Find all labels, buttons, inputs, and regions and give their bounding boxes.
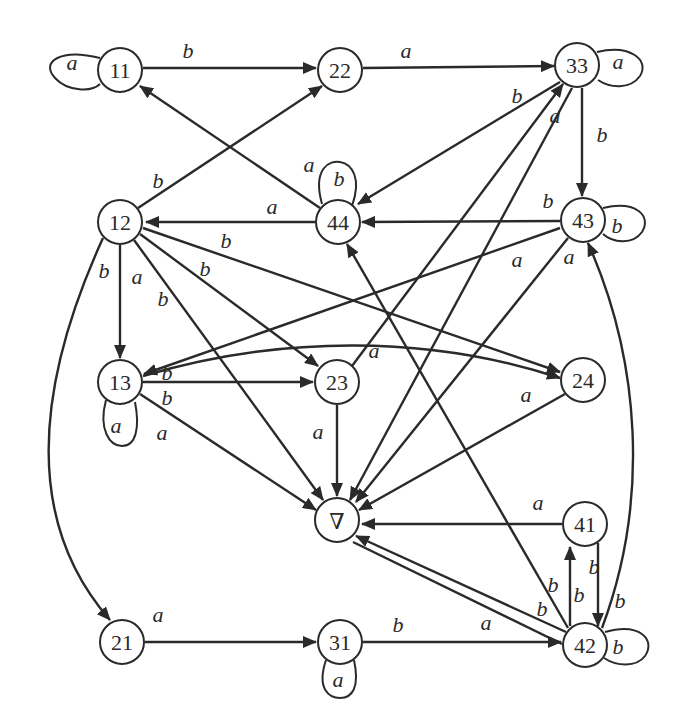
label-13-23: b: [162, 385, 173, 410]
label-12-21: b: [99, 258, 110, 283]
node-23: 23: [315, 360, 359, 404]
label-12-22: b: [153, 168, 164, 193]
label-33-43: b: [597, 122, 608, 147]
label-24-sink: a: [521, 382, 532, 407]
node-41: 41: [563, 502, 607, 546]
node-11: 11: [98, 48, 142, 92]
svg-text:24: 24: [572, 368, 594, 393]
svg-text:11: 11: [109, 58, 130, 83]
svg-text:23: 23: [326, 370, 348, 395]
svg-text:12: 12: [109, 210, 131, 235]
label-43-43: b: [612, 213, 623, 238]
node-22: 22: [318, 48, 362, 92]
label-13-13: a: [111, 413, 122, 438]
edge-42-sink-a: [353, 542, 562, 644]
node-13: 13: [98, 360, 142, 404]
svg-text:41: 41: [574, 512, 596, 537]
label-43-13: a: [512, 247, 523, 272]
svg-text:22: 22: [329, 58, 351, 83]
loop-43: [603, 206, 645, 241]
node-sink: ∇: [315, 498, 359, 542]
label-43-44: b: [543, 188, 554, 213]
label-42-43: b: [615, 588, 626, 613]
label-41-sink: a: [533, 490, 544, 515]
label-23-sink: a: [313, 419, 324, 444]
node-12: 12: [98, 200, 142, 244]
label-12-sink: b: [158, 286, 169, 311]
label-21-31: a: [153, 602, 164, 627]
label-42-41: b: [574, 582, 585, 607]
svg-text:13: 13: [109, 370, 131, 395]
label-33-33: a: [613, 49, 624, 74]
node-42: 42: [563, 623, 607, 667]
label-23-33: a: [369, 338, 380, 363]
node-33: 33: [555, 43, 599, 87]
svg-text:42: 42: [574, 633, 596, 658]
label-42-sink-a: a: [481, 610, 492, 635]
label-42-44: b: [548, 572, 559, 597]
edge-13-sink: [140, 394, 316, 510]
label-12-24: b: [221, 228, 232, 253]
label-13-24: b: [162, 360, 173, 385]
label-33-sink: a: [550, 103, 561, 128]
edge-43-44: [362, 221, 560, 222]
label-44-44: b: [334, 166, 345, 191]
label-12-23: b: [200, 256, 211, 281]
state-diagram: 11 22 33 12 44 43 13 23 24 ∇ 41 21 31 42…: [0, 0, 683, 727]
label-41-42: b: [589, 554, 600, 579]
edge-42-sink-b: [356, 536, 566, 632]
node-21: 21: [100, 620, 144, 664]
node-31: 31: [318, 620, 362, 664]
label-31-31: a: [333, 667, 344, 692]
label-44-11: a: [304, 152, 315, 177]
node-24: 24: [561, 358, 605, 402]
edge-33-sink: [350, 88, 572, 500]
label-43-sink: a: [564, 244, 575, 269]
loop-42: [604, 629, 648, 664]
label-13-sink: a: [157, 420, 168, 445]
label-44-12: a: [267, 194, 278, 219]
label-22-33: a: [401, 38, 412, 63]
edge-12-21: [49, 238, 110, 620]
label-11-11: a: [67, 50, 78, 75]
svg-text:21: 21: [111, 630, 133, 655]
edge-23-33: [352, 84, 563, 366]
node-44: 44: [316, 200, 360, 244]
edge-22-33: [363, 66, 554, 68]
label-33-44: b: [512, 83, 523, 108]
label-42-sink-b: b: [537, 596, 548, 621]
node-43: 43: [561, 198, 605, 242]
nabla-icon: ∇: [329, 509, 344, 534]
svg-text:44: 44: [327, 210, 349, 235]
label-12-13: a: [132, 264, 143, 289]
label-11-22: b: [183, 38, 194, 63]
svg-text:31: 31: [329, 630, 351, 655]
svg-text:43: 43: [572, 208, 594, 233]
label-31-42: b: [393, 612, 404, 637]
label-42-42: b: [613, 634, 624, 659]
svg-text:33: 33: [566, 53, 588, 78]
edge-33-44: [358, 82, 560, 204]
